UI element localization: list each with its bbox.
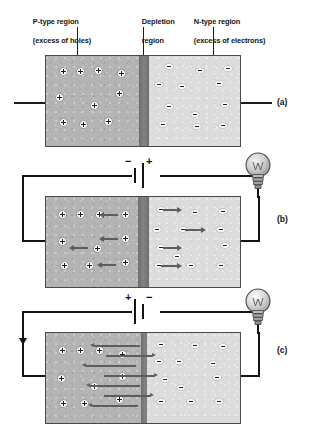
carrier-motion-arrow — [104, 375, 154, 377]
panel-label-a: (a) — [277, 97, 287, 107]
electron-carrier — [209, 361, 217, 366]
panel-a-n-type-region — [149, 56, 240, 146]
p-type-region-label: P-type region (excess of holes) — [25, 8, 91, 54]
carrier-motion-arrow — [86, 365, 136, 367]
panel-a-right-lead — [240, 102, 272, 104]
electron-carrier — [191, 343, 199, 348]
p-type-label-line2: (excess of holes) — [33, 36, 91, 45]
panel-b-depletion-region — [138, 197, 149, 287]
carrier-motion-arrow — [104, 214, 118, 216]
p-type-label-line1: P-type region — [33, 17, 79, 26]
hole-carrier — [77, 347, 84, 354]
hole-carrier — [122, 259, 129, 266]
electron-carrier — [187, 399, 195, 404]
electron-carrier — [165, 104, 173, 109]
panel-b-light-bulb — [242, 150, 274, 202]
hole-carrier — [60, 119, 67, 126]
electron-carrier — [215, 81, 223, 86]
carrier-motion-arrow — [104, 238, 118, 240]
hole-carrier — [86, 262, 93, 269]
panel-c-battery-right-sign: − — [146, 292, 152, 302]
panel-b-p-type-region — [46, 197, 138, 287]
electron-carrier — [219, 209, 227, 214]
carrier-motion-arrow — [106, 355, 152, 357]
electron-carrier — [217, 227, 225, 232]
electron-carrier — [191, 210, 199, 215]
panel-c-wire-right-vertical — [258, 332, 260, 377]
electron-carrier — [213, 375, 221, 380]
electron-carrier — [175, 359, 183, 364]
panel-b-battery-negative-plate — [134, 168, 136, 183]
panel-c-wire-top-left — [22, 311, 132, 313]
hole-carrier — [118, 70, 125, 77]
panel-a-semiconductor-block — [45, 55, 241, 147]
leader-line-depletion — [143, 27, 144, 55]
carrier-motion-arrow — [104, 395, 150, 397]
electron-carrier — [157, 342, 165, 347]
hole-carrier — [56, 94, 63, 101]
electron-carrier — [219, 123, 227, 128]
electron-carrier — [187, 263, 195, 268]
hole-carrier — [96, 347, 103, 354]
hole-carrier — [116, 90, 123, 97]
electron-carrier — [157, 399, 165, 404]
hole-carrier — [105, 118, 112, 125]
electron-carrier — [178, 84, 186, 89]
electron-carrier — [165, 64, 173, 69]
depletion-label-line1: Depletion — [142, 17, 175, 26]
hole-carrier — [77, 211, 84, 218]
hole-carrier — [59, 347, 66, 354]
panel-b-battery-left-sign: − — [125, 156, 131, 166]
panel-c-n-type-region — [147, 333, 240, 423]
hole-carrier — [59, 238, 66, 245]
panel-label-c: (c) — [277, 345, 287, 355]
electron-carrier — [159, 122, 167, 127]
hole-carrier — [122, 211, 129, 218]
panel-a-left-lead — [14, 102, 46, 104]
depletion-region-label: Depletion region — [134, 8, 175, 54]
depletion-label-line2: region — [142, 36, 164, 45]
electron-carrier — [217, 263, 225, 268]
pn-junction-figure: P-type region (excess of holes) Depletio… — [0, 0, 313, 430]
hole-carrier — [60, 400, 67, 407]
panel-c-battery-left-sign: + — [125, 292, 131, 302]
hole-carrier — [80, 121, 87, 128]
electron-carrier — [177, 385, 185, 390]
carrier-motion-arrow — [74, 247, 88, 249]
panel-c-battery-negative-plate — [142, 304, 144, 319]
electron-carrier — [155, 359, 163, 364]
leader-line-p-type — [77, 27, 78, 55]
panel-b-battery-right-sign: + — [146, 156, 152, 166]
leader-line-n-type — [213, 27, 214, 55]
carrier-motion-arrow — [102, 264, 116, 266]
hole-carrier — [61, 262, 68, 269]
panel-b-wire-left-vertical — [22, 175, 24, 242]
electron-carrier — [221, 243, 229, 248]
hole-carrier — [94, 245, 101, 252]
carrier-motion-arrow — [163, 209, 177, 211]
electron-carrier — [196, 68, 204, 73]
panel-b-wire-right-vertical — [258, 196, 260, 242]
electron-carrier — [153, 227, 161, 232]
electron-carrier — [221, 102, 229, 107]
carrier-motion-arrow — [185, 229, 201, 231]
electron-carrier — [191, 112, 199, 117]
panel-c-battery-positive-plate — [134, 299, 136, 324]
carrier-motion-arrow — [92, 405, 138, 407]
panel-b-semiconductor-block — [45, 196, 241, 288]
carrier-motion-arrow — [94, 345, 140, 347]
carrier-motion-arrow — [161, 265, 177, 267]
electron-carrier — [173, 254, 181, 259]
n-type-label-line1: N-type region — [194, 17, 240, 26]
electron-carrier — [224, 66, 232, 71]
panel-c-semiconductor-block — [45, 332, 241, 424]
panel-b-wire-top-left — [22, 175, 132, 177]
hole-carrier — [116, 396, 123, 403]
panel-b-battery-positive-plate — [142, 163, 144, 188]
hole-carrier — [77, 68, 84, 75]
panel-label-b: (b) — [277, 214, 288, 224]
hole-carrier — [95, 67, 102, 74]
electron-carrier — [161, 377, 169, 382]
electron-carrier — [215, 399, 223, 404]
carrier-motion-arrow — [163, 247, 177, 249]
